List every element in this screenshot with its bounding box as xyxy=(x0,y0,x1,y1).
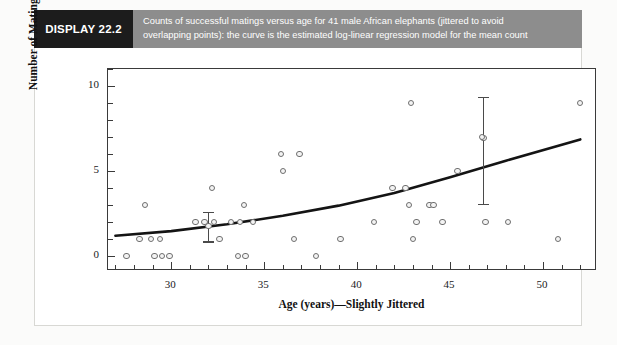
data-point xyxy=(413,219,419,225)
y-tick-minor xyxy=(108,154,113,155)
plot-inner xyxy=(108,69,595,269)
x-tick-minor xyxy=(524,265,525,270)
data-point xyxy=(291,236,297,242)
data-point xyxy=(337,236,343,242)
data-point xyxy=(242,253,248,259)
x-tick-minor xyxy=(134,265,135,270)
x-tick-minor xyxy=(301,265,302,270)
x-tick-minor xyxy=(339,265,340,270)
data-point xyxy=(296,151,302,157)
figure-page: DISPLAY 22.2 Counts of successful mating… xyxy=(0,0,617,345)
x-tick-minor xyxy=(227,265,228,270)
y-tick-minor xyxy=(108,137,113,138)
data-point xyxy=(439,219,445,225)
y-tick-minor xyxy=(108,69,113,70)
caption-line-2: overlapping points): the curve is the es… xyxy=(143,29,573,43)
x-tick-label: 50 xyxy=(527,278,557,290)
data-point xyxy=(148,236,154,242)
data-point xyxy=(482,219,488,225)
data-point xyxy=(505,219,511,225)
y-tick-minor xyxy=(108,188,113,189)
x-tick-minor xyxy=(487,265,488,270)
x-tick-minor xyxy=(190,265,191,270)
x-tick-minor xyxy=(506,265,507,270)
data-point xyxy=(241,202,247,208)
x-tick-minor xyxy=(283,265,284,270)
x-tick-minor xyxy=(376,265,377,270)
data-point xyxy=(123,253,129,259)
x-tick-major xyxy=(171,262,172,269)
display-banner: DISPLAY 22.2 Counts of successful mating… xyxy=(34,10,582,48)
data-point xyxy=(228,219,234,225)
data-point xyxy=(454,168,460,174)
data-point xyxy=(159,253,165,259)
y-tick-minor xyxy=(108,239,113,240)
x-tick-minor xyxy=(580,265,581,270)
x-tick-minor xyxy=(246,265,247,270)
x-tick-minor xyxy=(432,265,433,270)
error-bar-cap-upper xyxy=(478,97,489,98)
x-tick-minor xyxy=(562,265,563,270)
data-point xyxy=(166,253,172,259)
x-tick-label: 30 xyxy=(155,278,185,290)
data-point xyxy=(280,168,286,174)
data-point xyxy=(371,219,377,225)
y-tick-minor xyxy=(108,205,113,206)
x-tick-minor xyxy=(394,265,395,270)
x-tick-label: 45 xyxy=(434,278,464,290)
data-point xyxy=(151,253,157,259)
y-tick-label: 0 xyxy=(73,248,99,260)
x-tick-minor xyxy=(115,265,116,270)
x-tick-major xyxy=(450,262,451,269)
data-point xyxy=(402,185,408,191)
data-point xyxy=(192,219,198,225)
x-tick-major xyxy=(264,262,265,269)
y-tick-minor xyxy=(108,103,113,104)
error-bar-line xyxy=(483,97,484,204)
chart-figure: Number of Matings Age (years)—Slightly J… xyxy=(34,48,582,326)
data-point xyxy=(278,151,284,157)
data-point xyxy=(211,219,217,225)
y-tick-minor xyxy=(108,120,113,121)
data-point xyxy=(201,219,207,225)
data-point xyxy=(410,236,416,242)
display-caption: Counts of successful matings versus age … xyxy=(133,10,582,48)
data-point xyxy=(237,219,243,225)
plot-area xyxy=(107,68,596,270)
y-tick-label: 10 xyxy=(73,78,99,90)
error-bar-cap-lower xyxy=(478,204,489,205)
caption-line-1: Counts of successful matings versus age … xyxy=(143,15,573,29)
error-bar-cap-upper xyxy=(203,212,214,213)
y-tick-minor xyxy=(108,222,113,223)
y-tick-label: 5 xyxy=(73,163,99,175)
y-axis-label: Number of Matings xyxy=(27,0,39,112)
y-tick-major xyxy=(108,86,115,87)
y-tick-major xyxy=(108,171,115,172)
data-point xyxy=(555,236,561,242)
data-point xyxy=(430,202,436,208)
x-tick-minor xyxy=(153,265,154,270)
x-tick-minor xyxy=(320,265,321,270)
x-tick-minor xyxy=(469,265,470,270)
x-tick-label: 35 xyxy=(248,278,278,290)
x-tick-label: 40 xyxy=(341,278,371,290)
x-tick-major xyxy=(543,262,544,269)
data-point xyxy=(389,185,395,191)
display-number-tag: DISPLAY 22.2 xyxy=(34,10,133,48)
y-tick-major xyxy=(108,256,115,257)
data-point xyxy=(216,236,222,242)
data-point xyxy=(136,236,142,242)
error-bar-cap-lower xyxy=(203,241,214,242)
x-tick-minor xyxy=(413,265,414,270)
x-tick-major xyxy=(357,262,358,269)
x-axis-label: Age (years)—Slightly Jittered xyxy=(107,298,596,310)
regression-curve xyxy=(108,69,597,271)
data-point xyxy=(479,134,485,140)
x-tick-minor xyxy=(208,265,209,270)
